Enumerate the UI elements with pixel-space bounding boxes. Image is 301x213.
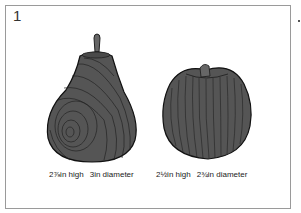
fruit-illustrations [0, 0, 301, 213]
apple-height: 2½in high [156, 170, 191, 179]
pear-body [47, 52, 136, 162]
pear-stem [94, 34, 100, 52]
pear-height: 2⅞in high [49, 170, 84, 179]
pear-illustration [47, 34, 136, 162]
apple-diameter: 2¾in diameter [197, 170, 248, 179]
apple-illustration [163, 64, 251, 159]
pear-diameter: 3in diameter [90, 170, 134, 179]
apple-caption: 2½in high2¾in diameter [156, 170, 247, 179]
apple-stem [200, 64, 210, 77]
pear-caption: 2⅞in high3in diameter [49, 170, 134, 179]
